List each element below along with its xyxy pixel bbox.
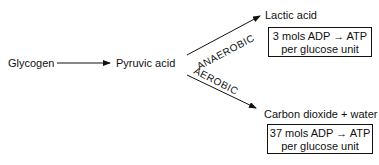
pyruvic-acid-label: Pyruvic acid <box>116 57 175 70</box>
lactic-acid-label: Lactic acid <box>265 9 317 22</box>
aerobic-yield-line1: 37 mols ADP → ATP <box>268 127 372 140</box>
co2-water-label: Carbon dioxide + water <box>264 108 377 121</box>
aerobic-yield-box: 37 mols ADP → ATP per glucose unit <box>267 124 373 154</box>
aerobic-yield-line2: per glucose unit <box>268 140 372 153</box>
anaerobic-yield-box: 3 mols ADP → ATP per glucose unit <box>268 27 372 57</box>
anaerobic-yield-line1: 3 mols ADP → ATP <box>269 30 371 43</box>
anaerobic-yield-line2: per glucose unit <box>269 43 371 56</box>
glycogen-label: Glycogen <box>8 57 54 70</box>
